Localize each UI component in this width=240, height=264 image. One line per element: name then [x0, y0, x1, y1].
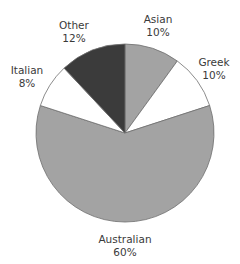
- label-greek: Greek 10%: [198, 56, 230, 81]
- label-other: Other 12%: [59, 19, 89, 44]
- label-australian-value: 60%: [113, 246, 136, 258]
- label-greek-value: 10%: [202, 69, 225, 81]
- label-australian-name: Australian: [98, 233, 151, 245]
- label-asian-value: 10%: [146, 26, 169, 38]
- label-italian: Italian 8%: [11, 64, 44, 89]
- label-other-name: Other: [59, 19, 89, 31]
- label-italian-value: 8%: [19, 77, 36, 89]
- label-asian: Asian 10%: [144, 13, 173, 38]
- label-asian-name: Asian: [144, 13, 173, 25]
- label-other-value: 12%: [62, 32, 85, 44]
- pie-chart: Asian 10% Greek 10% Australian 60% Itali…: [0, 0, 240, 264]
- pie-slices: [36, 44, 214, 222]
- label-greek-name: Greek: [198, 56, 230, 68]
- label-italian-name: Italian: [11, 64, 44, 76]
- label-australian: Australian 60%: [98, 233, 151, 258]
